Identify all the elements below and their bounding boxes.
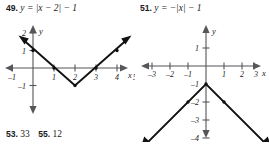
x-tick-label-4: 4 bbox=[115, 73, 119, 82]
problem-number-51: 51. bbox=[140, 3, 152, 13]
x-tick-label--1: –1 bbox=[183, 70, 192, 79]
y-axis-up-arrow-icon bbox=[202, 25, 209, 33]
curve-point-1-0 bbox=[52, 66, 55, 69]
x-tick-label-3: 3 bbox=[93, 73, 98, 82]
y-tick-label-1: 1 bbox=[22, 47, 26, 56]
x-axis-label: x bbox=[261, 68, 266, 78]
curve-point--1--2 bbox=[186, 100, 189, 103]
y-tick-label-2: 2 bbox=[22, 29, 26, 38]
y-axis-up-arrow-icon bbox=[29, 25, 36, 33]
x-tick-label-5: 5 bbox=[133, 73, 135, 82]
y-tick-label-1: 1 bbox=[195, 44, 199, 53]
problem-number-49: 49. bbox=[6, 3, 18, 13]
x-tick-label--1: –1 bbox=[7, 73, 16, 82]
y-axis-down-arrow-icon bbox=[202, 130, 209, 138]
x-axis-left-arrow-icon bbox=[141, 62, 149, 69]
curve-left-arrow-icon bbox=[140, 136, 151, 142]
y-axis-label: y bbox=[38, 26, 43, 36]
answer-number-53: 53. bbox=[6, 129, 18, 139]
answer-value-53: 33 bbox=[20, 129, 30, 139]
x-tick-label-1: 1 bbox=[52, 73, 56, 82]
problem-heading-51: 51. y = −|x| − 1 bbox=[140, 3, 201, 14]
x-tick-label-1: 1 bbox=[222, 70, 226, 79]
curve-point-4-1 bbox=[115, 49, 118, 52]
problem-equation-49: y = |x − 2| − 1 bbox=[20, 3, 77, 13]
graph-51: –3 –2 –1 1 2 3 1 –1 –2 –3 –4 x y bbox=[136, 16, 269, 142]
y-tick-label--1: –1 bbox=[190, 80, 199, 89]
answer-value-55: 12 bbox=[53, 129, 63, 139]
y-tick-label--1: –1 bbox=[17, 82, 26, 91]
y-tick-label--4: –4 bbox=[190, 134, 199, 142]
curve-point-2--1 bbox=[73, 84, 76, 87]
x-tick-label-3: 3 bbox=[253, 70, 258, 79]
textbook-answer-page: 49. y = |x − 2| − 1 51. y = −|x| − 1 bbox=[0, 0, 269, 144]
x-tick-label-2: 2 bbox=[73, 73, 77, 82]
graph-51-svg: –3 –2 –1 1 2 3 1 –1 –2 –3 –4 x y bbox=[136, 16, 269, 142]
graph-49-svg: –1 1 2 3 4 5 1 2 –1 x y bbox=[2, 16, 135, 120]
curve-point-0--1 bbox=[204, 82, 207, 85]
x-axis-right-arrow-icon bbox=[120, 64, 128, 71]
graph-49: –1 1 2 3 4 5 1 2 –1 x y bbox=[2, 16, 135, 120]
curve-point-3-0 bbox=[94, 66, 97, 69]
curve-point-0-1 bbox=[31, 49, 34, 52]
problem-equation-51: y = −|x| − 1 bbox=[154, 3, 201, 13]
x-axis-label: x bbox=[127, 70, 132, 80]
x-tick-label--2: –2 bbox=[165, 70, 174, 79]
answer-line: 53. 33 55. 12 bbox=[6, 129, 62, 139]
x-tick-label--3: –3 bbox=[147, 70, 156, 79]
y-axis-down-arrow-icon bbox=[29, 106, 36, 114]
y-tick-label--3: –3 bbox=[190, 116, 199, 125]
problem-heading-49: 49. y = |x − 2| − 1 bbox=[6, 3, 77, 14]
answer-number-55: 55. bbox=[38, 129, 50, 139]
curve-point-1--2 bbox=[222, 100, 225, 103]
x-tick-label-2: 2 bbox=[240, 70, 244, 79]
y-axis-label: y bbox=[211, 26, 216, 36]
